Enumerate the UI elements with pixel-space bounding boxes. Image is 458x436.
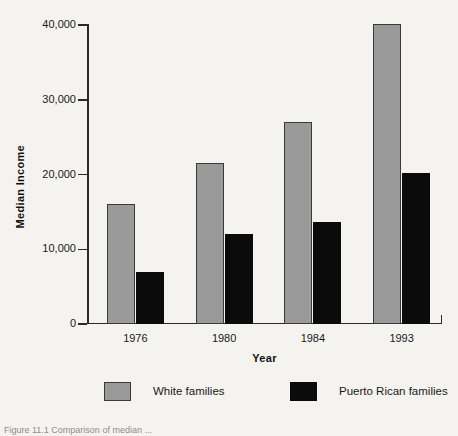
y-axis-line <box>87 25 89 324</box>
y-axis-title: Median Income <box>14 145 26 228</box>
legend-label-white-families: White families <box>153 385 225 398</box>
x-axis-title: Year <box>87 352 442 364</box>
bar-white-families-1984 <box>284 122 312 324</box>
y-axis-tick <box>78 174 87 176</box>
legend-swatch-white-families <box>104 382 131 401</box>
legend-item-white-families: White families <box>104 381 225 401</box>
y-axis-top-cap <box>87 24 89 33</box>
x-axis-right-cap <box>441 315 443 324</box>
x-axis-tick-labels: 1976198019841993 <box>87 332 442 348</box>
legend-label-puerto-rican-families: Puerto Rican families <box>339 385 448 398</box>
y-axis-tick <box>78 99 87 101</box>
bar-white-families-1980 <box>196 163 224 324</box>
legend-swatch-puerto-rican-families <box>290 382 317 401</box>
x-axis-tick-label: 1993 <box>362 332 442 344</box>
bar-puerto-rican-families-1993 <box>402 173 430 324</box>
plot-area <box>87 25 442 324</box>
y-axis-tick <box>78 24 87 26</box>
y-axis-tick <box>78 249 87 251</box>
bar-white-families-1976 <box>107 204 135 324</box>
bar-puerto-rican-families-1976 <box>136 272 164 324</box>
y-axis-tick-label: 10,000 <box>12 243 76 254</box>
y-axis-tick-label: 0 <box>12 318 76 329</box>
bar-puerto-rican-families-1984 <box>313 222 341 324</box>
chart-legend: White families Puerto Rican families <box>104 381 434 405</box>
x-axis-tick-label: 1984 <box>273 332 353 344</box>
y-axis-tick-label: 40,000 <box>12 19 76 30</box>
figure-caption: Figure 11.1 Comparison of median ... <box>4 425 454 436</box>
legend-item-puerto-rican-families: Puerto Rican families <box>290 381 448 401</box>
bar-puerto-rican-families-1980 <box>225 234 253 324</box>
x-axis-tick-label: 1980 <box>184 332 264 344</box>
y-axis-tick-label: 30,000 <box>12 94 76 105</box>
y-axis-tick <box>78 323 87 325</box>
bar-white-families-1993 <box>373 24 401 324</box>
x-axis-tick-label: 1976 <box>95 332 175 344</box>
